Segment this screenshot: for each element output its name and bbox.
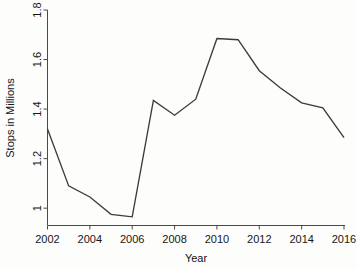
x-axis-title: Year (185, 252, 208, 264)
x-tick-label: 2004 (78, 233, 102, 245)
y-tick-label: 1.6 (31, 52, 43, 67)
chart-canvas: 11.21.41.61.8 20022004200620082010201220… (0, 0, 357, 269)
x-tick-marks (48, 226, 345, 230)
y-tick-label: 1.8 (31, 2, 43, 17)
y-axis (44, 10, 48, 225)
x-tick-label: 2008 (162, 233, 186, 245)
x-tick-label: 2002 (35, 233, 59, 245)
y-axis-title: Stops in Millions (4, 78, 16, 158)
x-tick-label: 2010 (205, 233, 229, 245)
y-tick-label-group: 11.21.41.61.8 (31, 2, 43, 211)
y-tick-label: 1.2 (31, 151, 43, 166)
x-axis (48, 226, 346, 230)
x-tick-label: 2012 (247, 233, 271, 245)
y-tick-label: 1 (31, 205, 43, 211)
x-tick-label: 2016 (332, 233, 356, 245)
x-tick-label: 2014 (289, 233, 313, 245)
x-tick-label-group: 20022004200620082010201220142016 (35, 233, 356, 245)
data-series-line (48, 38, 345, 216)
line-chart-figure: 11.21.41.61.8 20022004200620082010201220… (0, 0, 357, 269)
y-tick-label: 1.4 (31, 101, 43, 116)
x-tick-label: 2006 (120, 233, 144, 245)
y-tick-marks (44, 10, 48, 208)
